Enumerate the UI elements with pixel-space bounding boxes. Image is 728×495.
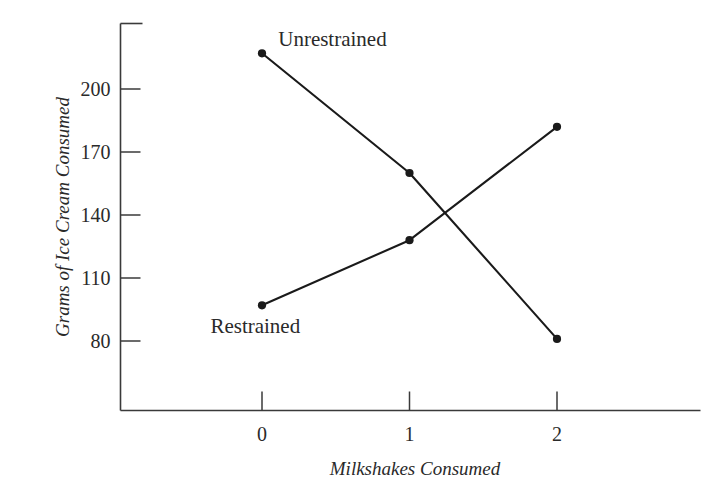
y-tick-label: 170 — [81, 141, 111, 164]
data-point — [405, 236, 413, 244]
series-label-unrestrained: Unrestrained — [278, 27, 386, 52]
data-point — [553, 123, 561, 131]
series-line-unrestrained — [262, 53, 557, 339]
chart-data-points — [258, 49, 561, 343]
y-tick-label: 140 — [81, 204, 111, 227]
x-tick-label: 0 — [257, 423, 267, 446]
data-point — [258, 49, 266, 57]
x-tick-label: 1 — [405, 423, 415, 446]
chart-tick-marks — [121, 89, 558, 411]
data-point — [258, 301, 266, 309]
y-tick-label: 80 — [91, 330, 111, 353]
chart-axes — [121, 24, 701, 411]
x-axis-title: Milkshakes Consumed — [330, 458, 500, 480]
y-tick-label: 200 — [81, 78, 111, 101]
y-tick-label: 110 — [81, 267, 110, 290]
line-chart-canvas — [0, 0, 728, 495]
chart-series-lines — [262, 53, 557, 339]
y-axis-title: Grams of Ice Cream Consumed — [52, 97, 74, 337]
series-label-restrained: Restrained — [210, 314, 300, 339]
chart-figure: 20017014011080 012 UnrestrainedRestraine… — [0, 0, 728, 495]
data-point — [553, 335, 561, 343]
x-tick-label: 2 — [552, 423, 562, 446]
series-line-restrained — [262, 127, 557, 305]
data-point — [405, 169, 413, 177]
